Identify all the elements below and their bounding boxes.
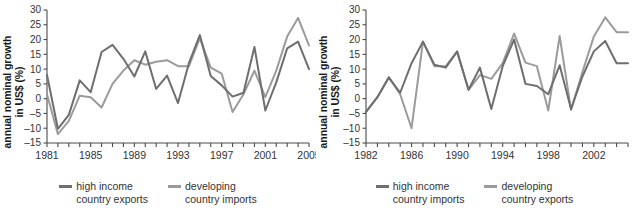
legend-item-right-1: developing country exports [484,180,573,206]
dual-line-chart-figure: annual nominal growth in US$ (%) –15–10–… [0,0,633,208]
y-tick-label: 0 [35,93,41,104]
series-line-1 [366,17,628,128]
y-tick-label: 20 [30,34,42,45]
x-tick-label: 1998 [537,149,561,161]
legend-label-left-0: high income country exports [76,180,148,206]
y-tick-label: –5 [349,108,361,119]
y-tick-label: 20 [349,34,361,45]
legend-item-left-1: developing country imports [168,180,257,206]
legend-right: high income country imports developing c… [316,180,633,206]
y-tick-label: 10 [349,64,361,75]
legend-label-right-0-line1: high income [393,180,465,193]
legend-label-left-1-line2: country imports [185,193,257,206]
x-tick-label: 1985 [79,149,103,161]
y-tick-label: 0 [354,93,360,104]
x-tick-label: 1981 [35,149,59,161]
legend-swatch-developing-exports [484,185,497,188]
y-tick-label: 15 [349,49,361,60]
y-tick-label: 5 [35,78,41,89]
x-tick-label: 1993 [166,149,190,161]
y-tick-label: 25 [349,19,361,30]
legend-item-right-0: high income country imports [376,180,465,206]
x-tick-label: 1989 [123,149,147,161]
series-line-1 [47,18,309,134]
y-tick-label: 5 [354,78,360,89]
x-tick-label: 1982 [354,149,378,161]
y-tick-label: –10 [343,123,360,134]
chart-panel-right: annual nominal growth in US$ (%) –15–10–… [316,0,633,208]
x-tick-label: 1997 [210,149,234,161]
plot-area-left: –15–10–505101520253019811985198919931997… [0,0,316,170]
y-tick-label: –5 [30,108,42,119]
legend-label-left-0-line1: high income [76,180,148,193]
y-tick-label: –15 [343,137,360,148]
y-tick-label: –15 [24,137,41,148]
x-tick-label: 1986 [400,149,424,161]
legend-swatch-developing-imports [168,185,181,188]
legend-label-right-1: developing country exports [501,180,573,206]
y-tick-label: 25 [30,19,42,30]
legend-label-left-1: developing country imports [185,180,257,206]
plot-area-right: –15–10–505101520253019821986199019941998… [316,0,633,170]
y-tick-label: 10 [30,64,42,75]
legend-swatch-high-income-exports [59,185,72,188]
legend-label-right-0-line2: country imports [393,193,465,206]
x-tick-label: 2001 [254,149,278,161]
x-tick-label: 1994 [491,149,515,161]
x-tick-label: 1990 [445,149,469,161]
legend-item-left-0: high income country exports [59,180,148,206]
legend-label-right-1-line1: developing [501,180,573,193]
legend-swatch-high-income-imports [376,185,389,188]
legend-left: high income country exports developing c… [0,180,316,206]
legend-label-right-0: high income country imports [393,180,465,206]
y-tick-label: 30 [30,4,42,15]
chart-panel-left: annual nominal growth in US$ (%) –15–10–… [0,0,316,208]
legend-label-left-1-line1: developing [185,180,257,193]
y-tick-label: –10 [24,123,41,134]
legend-label-left-0-line2: country exports [76,193,148,206]
y-tick-label: 15 [30,49,42,60]
series-line-0 [47,35,309,129]
x-tick-label: 2005 [297,149,316,161]
y-tick-label: 30 [349,4,361,15]
legend-label-right-1-line2: country exports [501,193,573,206]
x-tick-label: 2002 [582,149,606,161]
